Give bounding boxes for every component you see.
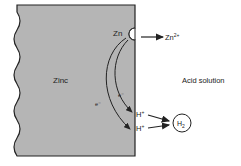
zinc-metal-block [14,5,135,156]
electron-label-inner: e⁻ [118,92,124,98]
proton-arrow-1 [148,115,169,121]
metal-label: Zinc [53,76,68,85]
solution-label: Acid solution [182,76,225,85]
proton-label-1: H+ [136,109,144,119]
proton-label-2: H+ [136,123,144,133]
anode-site-label: Zn [113,29,122,38]
zinc-ion-label: Zn2+ [165,32,180,42]
zinc-corrosion-diagram: Zinc Acid solution Zn Zn2+ e⁻ e⁻ H+ H+ H… [0,0,241,166]
proton-arrow-2 [148,125,169,128]
electron-label-outer: e⁻ [95,101,101,107]
